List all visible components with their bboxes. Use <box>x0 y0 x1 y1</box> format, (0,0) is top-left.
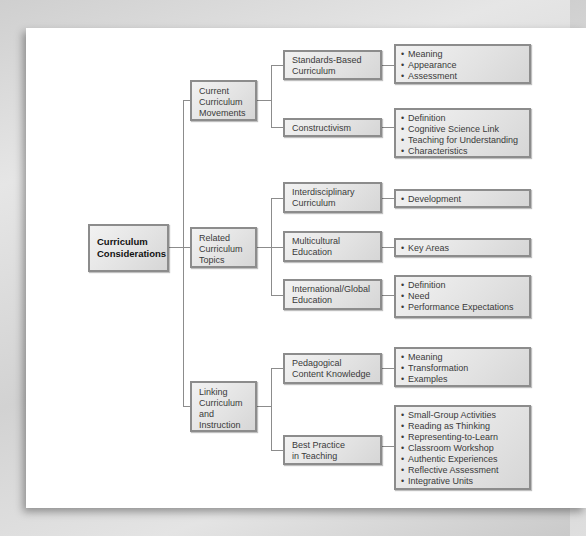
list-item: •Need <box>401 291 524 302</box>
node-related-curriculum-topics: Related Curriculum Topics <box>190 227 257 268</box>
bullet-icon: • <box>401 454 404 465</box>
connector-constructivism-in <box>271 127 283 128</box>
list-item-text: Assessment <box>408 71 457 81</box>
list-item-text: Performance Expectations <box>408 302 514 312</box>
list-item-text: Key Areas <box>408 243 449 253</box>
connector-pck-out <box>382 368 394 369</box>
bullet-list: •Meaning•Appearance•Assessment <box>401 49 524 82</box>
list-item-text: Examples <box>408 374 448 384</box>
node-label-line: Best Practice <box>292 440 373 451</box>
node-label-line: Interdisciplinary <box>292 187 373 198</box>
connector-related-out <box>257 247 271 248</box>
bullet-icon: • <box>401 476 404 487</box>
root-label-line2: Considerations <box>97 248 160 260</box>
list-item-text: Cognitive Science Link <box>408 124 499 134</box>
node-label-line: Curriculum <box>199 244 248 255</box>
bullet-icon: • <box>401 124 404 135</box>
connector-l1-trunk <box>183 100 184 407</box>
node-label-line: Standards-Based <box>292 55 373 66</box>
bullet-icon: • <box>401 243 404 254</box>
list-item-text: Meaning <box>408 49 443 59</box>
list-international-topics: •Definition•Need•Performance Expectation… <box>394 275 531 318</box>
connector-root-to-l1 <box>168 247 190 248</box>
list-item: •Teaching for Understanding <box>401 135 524 146</box>
list-item: •Meaning <box>401 49 524 60</box>
list-item-text: Meaning <box>408 352 443 362</box>
list-item-text: Reading as Thinking <box>408 421 490 431</box>
bullet-icon: • <box>401 432 404 443</box>
node-label-line: Pedagogical <box>292 358 373 369</box>
list-item-text: Need <box>408 291 430 301</box>
node-label-line: Instruction <box>199 420 248 431</box>
node-label-line: Education <box>292 295 373 306</box>
list-item: •Definition <box>401 113 524 124</box>
bullet-icon: • <box>401 60 404 71</box>
list-item: •Key Areas <box>401 243 524 254</box>
connector-multicultural-out <box>382 247 394 248</box>
bullet-icon: • <box>401 146 404 157</box>
bullet-icon: • <box>401 194 404 205</box>
connector-constructivism-out <box>382 127 394 128</box>
list-item: •Small-Group Activities <box>401 410 524 421</box>
list-item: •Performance Expectations <box>401 302 524 313</box>
list-item: •Assessment <box>401 71 524 82</box>
node-label-line: Content Knowledge <box>292 369 373 380</box>
list-item-text: Classroom Workshop <box>408 443 494 453</box>
bullet-icon: • <box>401 291 404 302</box>
list-standards-based-topics: •Meaning•Appearance•Assessment <box>394 44 531 84</box>
list-item: •Appearance <box>401 60 524 71</box>
node-interdisciplinary-curriculum: Interdisciplinary Curriculum <box>283 182 382 213</box>
list-item: •Examples <box>401 374 524 385</box>
bullet-icon: • <box>401 410 404 421</box>
bullet-icon: • <box>401 135 404 146</box>
list-interdisciplinary-topics: •Development <box>394 189 531 208</box>
node-label-line: Topics <box>199 255 248 266</box>
bullet-icon: • <box>401 302 404 313</box>
bullet-icon: • <box>401 374 404 385</box>
node-label-line: in Teaching <box>292 451 373 462</box>
connector-linking-trunk <box>271 368 272 450</box>
list-item: •Representing-to-Learn <box>401 432 524 443</box>
bullet-icon: • <box>401 352 404 363</box>
node-constructivism: Constructivism <box>283 118 382 137</box>
connector-bestpractice-in <box>271 450 283 451</box>
list-item: •Characteristics <box>401 146 524 157</box>
connector-l1-current <box>183 100 190 101</box>
root-label-line1: Curriculum <box>97 236 160 248</box>
node-label-line: and <box>199 409 248 420</box>
node-label-line: Multicultural <box>292 236 373 247</box>
connector-standards-in <box>271 65 283 66</box>
list-item-text: Characteristics <box>408 146 468 156</box>
list-item-text: Small-Group Activities <box>408 410 496 420</box>
list-item-text: Definition <box>408 280 446 290</box>
connector-l1-linking <box>183 406 190 407</box>
node-label-line: Curriculum <box>199 97 248 108</box>
bullet-list: •Definition•Need•Performance Expectation… <box>401 280 524 313</box>
list-item-text: Transformation <box>408 363 468 373</box>
list-constructivism-topics: •Definition•Cognitive Science Link•Teach… <box>394 108 531 158</box>
node-current-curriculum-movements: Current Curriculum Movements <box>190 80 257 121</box>
list-multicultural-topics: •Key Areas <box>394 238 531 257</box>
list-item: •Integrative Units <box>401 476 524 487</box>
list-item: •Authentic Experiences <box>401 454 524 465</box>
list-item-text: Definition <box>408 113 446 123</box>
bullet-list: •Key Areas <box>401 243 524 254</box>
list-item: •Reflective Assessment <box>401 465 524 476</box>
list-item-text: Reflective Assessment <box>408 465 499 475</box>
list-pck-topics: •Meaning•Transformation•Examples <box>394 347 531 387</box>
list-item-text: Representing-to-Learn <box>408 432 498 442</box>
connector-linking-out <box>257 406 271 407</box>
list-item-text: Appearance <box>408 60 457 70</box>
list-item: •Definition <box>401 280 524 291</box>
node-label-line: Linking <box>199 387 248 398</box>
node-label-line: Constructivism <box>292 123 373 134</box>
connector-current-out <box>257 100 271 101</box>
connector-bestpractice-out <box>382 446 394 447</box>
connector-international-in <box>271 295 283 296</box>
list-item-text: Development <box>408 194 461 204</box>
bullet-list: •Small-Group Activities•Reading as Think… <box>401 410 524 487</box>
node-label-line: Related <box>199 233 248 244</box>
node-label-line: Current <box>199 86 248 97</box>
node-label-line: Movements <box>199 108 248 119</box>
bullet-icon: • <box>401 465 404 476</box>
